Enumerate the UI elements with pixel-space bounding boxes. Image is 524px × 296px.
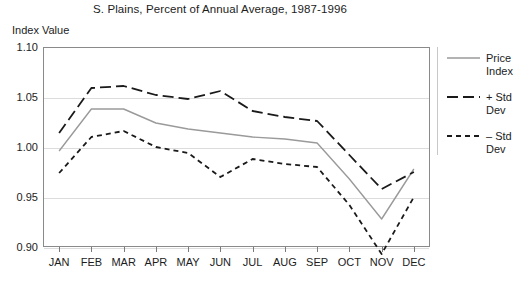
legend-label-line2: Index	[486, 65, 513, 78]
legend-label-line1: – Std	[486, 130, 512, 143]
y-tick-label: 0.90	[2, 241, 38, 253]
x-tick-label: DEC	[402, 256, 425, 268]
x-tick-mark	[349, 247, 350, 252]
x-tick-label: JAN	[49, 256, 70, 268]
y-axis-label: Index Value	[12, 24, 69, 36]
x-tick-mark	[253, 247, 254, 252]
long-dash-line-icon	[447, 91, 480, 103]
x-tick-mark	[382, 247, 383, 252]
y-tick-label: 1.05	[2, 91, 38, 103]
x-tick-label: OCT	[338, 256, 361, 268]
legend-label-line1: + Std	[486, 91, 512, 104]
legend-label-line2: Dev	[486, 143, 512, 156]
x-tick-mark	[156, 247, 157, 252]
legend-divider	[437, 47, 438, 155]
y-tick-label: 0.95	[2, 191, 38, 203]
x-tick-mark	[124, 247, 125, 252]
x-tick-mark	[59, 247, 60, 252]
legend-item[interactable]: PriceIndex	[447, 52, 521, 78]
legend-label: + StdDev	[486, 91, 512, 117]
y-tick-label: 1.10	[2, 41, 38, 53]
x-tick-mark	[414, 247, 415, 252]
legend-label: – StdDev	[486, 130, 512, 156]
solid-line-icon	[447, 52, 480, 64]
x-tick-label: MAR	[111, 256, 135, 268]
legend-label: PriceIndex	[486, 52, 513, 78]
x-tick-label: AUG	[273, 256, 297, 268]
series-lines	[43, 47, 430, 247]
gridline	[44, 248, 429, 249]
x-tick-mark	[220, 247, 221, 252]
x-tick-label: SEP	[306, 256, 328, 268]
series-line	[59, 109, 414, 219]
legend-label-line2: Dev	[486, 104, 512, 117]
legend-item[interactable]: – StdDev	[447, 130, 521, 156]
x-tick-mark	[91, 247, 92, 252]
chart-container: S. Plains, Percent of Annual Average, 19…	[0, 0, 524, 296]
x-tick-label: NOV	[370, 256, 394, 268]
short-dash-line-icon	[447, 130, 480, 142]
legend-label-line1: Price	[486, 52, 513, 65]
x-tick-label: JUL	[243, 256, 263, 268]
x-tick-label: APR	[145, 256, 168, 268]
x-tick-label: MAY	[177, 256, 200, 268]
chart-legend: PriceIndex+ StdDev– StdDev	[447, 52, 521, 169]
y-tick-label: 1.00	[2, 141, 38, 153]
x-tick-label: FEB	[81, 256, 102, 268]
x-tick-label: JUN	[210, 256, 231, 268]
x-tick-mark	[317, 247, 318, 252]
series-line	[59, 86, 414, 189]
x-tick-mark	[285, 247, 286, 252]
legend-item[interactable]: + StdDev	[447, 91, 521, 117]
chart-title: S. Plains, Percent of Annual Average, 19…	[0, 3, 440, 15]
x-tick-mark	[188, 247, 189, 252]
